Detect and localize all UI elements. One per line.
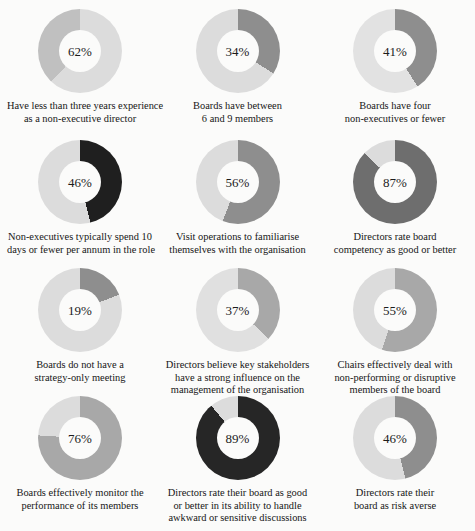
donut-chart-cell: 89%Directors rate their board as goodor … (160, 387, 315, 531)
caption-line: non-executives or fewer (345, 113, 445, 126)
donut-chart: 37% (196, 268, 280, 352)
donut-ring: 41% (353, 9, 437, 93)
donut-caption: Boards do not have astrategy-only meetin… (32, 359, 129, 384)
caption-line: board as risk averse (354, 500, 436, 513)
donut-value-label: 76% (68, 432, 92, 445)
donut-center: 37% (217, 289, 259, 331)
donut-ring: 34% (196, 9, 280, 93)
donut-center: 89% (217, 417, 259, 459)
donut-chart-cell: 62%Have less than three years experience… (0, 0, 160, 131)
donut-chart-cell: 19%Boards do not have astrategy-only mee… (0, 259, 160, 387)
donut-ring: 46% (38, 140, 122, 224)
donut-caption: Non-executives typically spend 10days or… (4, 231, 156, 256)
donut-center: 19% (59, 289, 101, 331)
caption-line: Non-executives typically spend 10 (7, 231, 153, 244)
donut-center: 76% (59, 417, 101, 459)
donut-chart-cell: 46%Non-executives typically spend 10days… (0, 131, 160, 259)
donut-value-label: 87% (383, 176, 407, 189)
caption-line: Directors rate board (334, 231, 456, 244)
donut-ring: 76% (38, 396, 122, 480)
donut-value-label: 46% (383, 432, 407, 445)
caption-line: have a strong influence on the (166, 372, 309, 385)
donut-center: 41% (374, 30, 416, 72)
donut-value-label: 34% (225, 45, 249, 58)
donut-value-label: 62% (68, 45, 92, 58)
donut-caption: Directors rate their board as goodor bet… (165, 487, 310, 525)
donut-ring: 56% (196, 140, 280, 224)
donut-caption: Boards effectively monitor theperformanc… (13, 487, 146, 512)
caption-line: Chairs effectively deal with (334, 359, 455, 372)
caption-line: Boards do not have a (35, 359, 126, 372)
donut-ring: 89% (196, 396, 280, 480)
donut-chart-cell: 46%Directors rate theirboard as risk ave… (315, 387, 475, 531)
caption-line: or better in its ability to handle (168, 500, 307, 513)
donut-caption: Directors rate boardcompetency as good o… (331, 231, 459, 256)
donut-ring: 62% (38, 9, 122, 93)
caption-line: days or fewer per annum in the role (7, 244, 153, 257)
donut-chart: 41% (353, 9, 437, 93)
donut-ring: 46% (353, 396, 437, 480)
caption-line: 6 and 9 members (193, 113, 282, 126)
donut-chart-cell: 76%Boards effectively monitor theperform… (0, 387, 160, 531)
caption-line: Directors rate their board as good (168, 487, 307, 500)
donut-chart-cell: 41%Boards have fournon-executives or few… (315, 0, 475, 131)
donut-value-label: 89% (225, 432, 249, 445)
donut-center: 34% (217, 30, 259, 72)
donut-ring: 19% (38, 268, 122, 352)
donut-chart-cell: 34%Boards have between6 and 9 members (160, 0, 315, 131)
donut-value-label: 56% (225, 176, 249, 189)
donut-chart: 76% (38, 396, 122, 480)
donut-chart-grid: 62%Have less than three years experience… (0, 0, 475, 531)
donut-chart: 56% (196, 140, 280, 224)
caption-line: as a non-executive director (7, 113, 153, 126)
caption-line: Boards have between (193, 100, 282, 113)
donut-caption: Have less than three years experienceas … (4, 100, 156, 125)
donut-caption: Boards have fournon-executives or fewer (342, 100, 448, 125)
donut-chart-cell: 37%Directors believe key stakeholdershav… (160, 259, 315, 387)
caption-line: competency as good or better (334, 244, 456, 257)
donut-value-label: 55% (383, 304, 407, 317)
caption-line: awkward or sensitive discussions (168, 512, 307, 525)
caption-line: Visit operations to familiarise (169, 231, 305, 244)
donut-center: 87% (374, 161, 416, 203)
caption-line: Directors believe key stakeholders (166, 359, 309, 372)
donut-chart: 62% (38, 9, 122, 93)
donut-value-label: 41% (383, 45, 407, 58)
donut-chart-cell: 56%Visit operations to familiarisethemse… (160, 131, 315, 259)
caption-line: Directors rate their (354, 487, 436, 500)
donut-value-label: 19% (68, 304, 92, 317)
caption-line: strategy-only meeting (35, 372, 126, 385)
donut-caption: Visit operations to familiarisethemselve… (166, 231, 308, 256)
donut-chart-cell: 55%Chairs effectively deal withnon-perfo… (315, 259, 475, 387)
donut-caption: Boards have between6 and 9 members (190, 100, 285, 125)
caption-line: themselves with the organisation (169, 244, 305, 257)
donut-center: 55% (374, 289, 416, 331)
donut-caption: Directors rate theirboard as risk averse (351, 487, 439, 512)
caption-line: non-performing or disruptive (334, 372, 455, 385)
donut-chart: 19% (38, 268, 122, 352)
caption-line: Have less than three years experience (7, 100, 153, 113)
donut-ring: 55% (353, 268, 437, 352)
donut-ring: 37% (196, 268, 280, 352)
donut-chart: 55% (353, 268, 437, 352)
donut-value-label: 46% (68, 176, 92, 189)
caption-line: performance of its members (16, 500, 143, 513)
donut-center: 56% (217, 161, 259, 203)
caption-line: Boards have four (345, 100, 445, 113)
donut-chart: 46% (38, 140, 122, 224)
donut-chart: 89% (196, 396, 280, 480)
donut-value-label: 37% (225, 304, 249, 317)
donut-ring: 87% (353, 140, 437, 224)
donut-chart-cell: 87%Directors rate boardcompetency as goo… (315, 131, 475, 259)
donut-chart: 87% (353, 140, 437, 224)
donut-center: 62% (59, 30, 101, 72)
donut-chart: 34% (196, 9, 280, 93)
donut-chart: 46% (353, 396, 437, 480)
donut-center: 46% (374, 417, 416, 459)
caption-line: Boards effectively monitor the (16, 487, 143, 500)
donut-center: 46% (59, 161, 101, 203)
